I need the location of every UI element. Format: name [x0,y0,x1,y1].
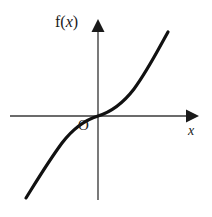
origin-label: O [78,118,89,133]
y-axis-label-variable: x [66,13,73,30]
y-axis-label-suffix: ) [73,13,78,30]
y-axis-label: f(x) [55,14,78,30]
function-curve [26,32,168,198]
y-axis-label-prefix: f( [55,13,66,30]
x-axis-label: x [188,124,194,138]
y-axis-arrowhead-icon [92,19,105,32]
graph-canvas [0,0,212,217]
x-axis-arrowhead-icon [186,110,199,123]
function-graph-figure: f(x) O x [0,0,212,217]
